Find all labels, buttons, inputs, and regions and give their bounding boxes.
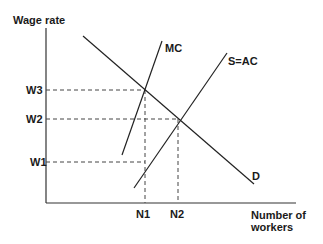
supply-ac-curve — [134, 53, 227, 188]
demand-label: D — [252, 170, 260, 182]
n1-label: N1 — [136, 208, 150, 220]
w1-label: W1 — [30, 156, 47, 168]
w3-label: W3 — [26, 84, 43, 96]
mc-curve — [122, 41, 162, 155]
x-axis-label-line2: workers — [250, 221, 293, 233]
x-axis-label-line1: Number of — [251, 209, 306, 221]
supply-label: S=AC — [228, 55, 258, 67]
n2-label: N2 — [170, 208, 184, 220]
mc-label: MC — [165, 42, 182, 54]
monopsony-diagram: Wage rate MC S=AC D W3 W2 W1 N1 N2 Numbe… — [0, 0, 323, 244]
y-axis-label: Wage rate — [13, 14, 65, 26]
w2-label: W2 — [26, 113, 43, 125]
